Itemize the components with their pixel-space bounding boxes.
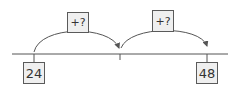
start-value: 24 xyxy=(26,66,43,81)
jump-label-box-1: +? xyxy=(67,12,89,33)
jump-label-1: +? xyxy=(70,16,85,29)
end-value-box: 48 xyxy=(196,62,218,84)
jump-arrow-2 xyxy=(121,30,207,48)
start-value-box: 24 xyxy=(23,62,45,84)
jump-arrow-1 xyxy=(34,31,119,52)
jump-label-2: +? xyxy=(155,15,170,28)
jump-label-box-2: +? xyxy=(152,10,174,32)
end-value: 48 xyxy=(199,66,216,81)
